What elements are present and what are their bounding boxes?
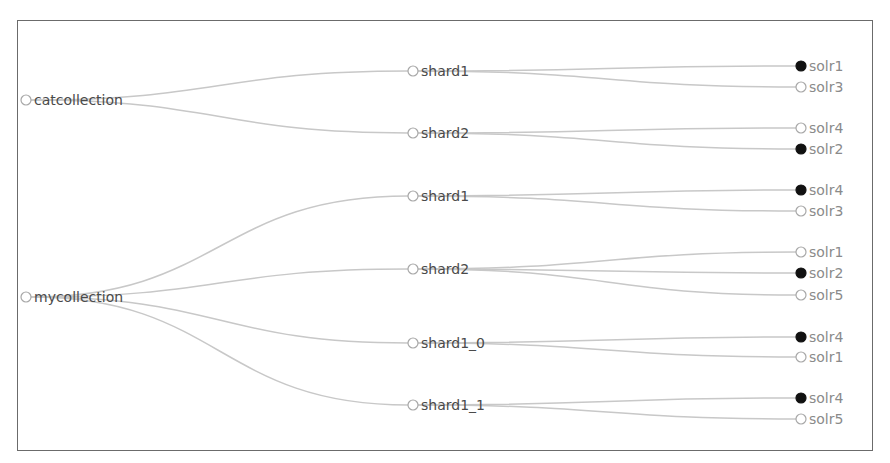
node-label: shard1 bbox=[421, 63, 469, 79]
collection-node-catcollection[interactable]: catcollection bbox=[21, 92, 123, 108]
node-label: mycollection bbox=[34, 289, 123, 305]
node-label: solr2 bbox=[809, 265, 843, 281]
replica-node-catcollection-shard1-solr3[interactable]: solr3 bbox=[796, 79, 843, 95]
shard-replica-link bbox=[418, 66, 796, 71]
replica-node-mycollection-shard1-solr4[interactable]: solr4 bbox=[796, 182, 844, 198]
inactive-node-icon[interactable] bbox=[796, 247, 806, 257]
replica-node-catcollection-shard2-solr2[interactable]: solr2 bbox=[796, 141, 843, 157]
active-node-icon[interactable] bbox=[796, 61, 806, 71]
collection-node-mycollection[interactable]: mycollection bbox=[21, 289, 123, 305]
tree-links bbox=[31, 66, 796, 419]
node-label: solr1 bbox=[809, 349, 843, 365]
collection-shard-link bbox=[31, 196, 408, 297]
replica-node-catcollection-shard2-solr4[interactable]: solr4 bbox=[796, 120, 844, 136]
node-label: solr4 bbox=[809, 390, 844, 406]
inactive-node-icon[interactable] bbox=[408, 264, 418, 274]
node-label: solr5 bbox=[809, 287, 843, 303]
node-label: solr4 bbox=[809, 329, 844, 345]
active-node-icon[interactable] bbox=[796, 268, 806, 278]
node-label: solr4 bbox=[809, 120, 844, 136]
inactive-node-icon[interactable] bbox=[796, 414, 806, 424]
replica-node-catcollection-shard1-solr1[interactable]: solr1 bbox=[796, 58, 843, 74]
active-node-icon[interactable] bbox=[796, 185, 806, 195]
node-label: shard1_1 bbox=[421, 397, 485, 413]
replica-node-mycollection-shard2-solr1[interactable]: solr1 bbox=[796, 244, 843, 260]
inactive-node-icon[interactable] bbox=[796, 290, 806, 300]
node-label: shard1 bbox=[421, 188, 469, 204]
node-label: solr3 bbox=[809, 79, 843, 95]
inactive-node-icon[interactable] bbox=[796, 352, 806, 362]
replica-node-mycollection-shard1_0-solr1[interactable]: solr1 bbox=[796, 349, 843, 365]
shard-replica-link bbox=[418, 252, 796, 269]
cloud-tree-graph: catcollectionshard1solr1solr3shard2solr4… bbox=[0, 0, 890, 463]
shard-node-mycollection-shard2[interactable]: shard2 bbox=[408, 261, 469, 277]
inactive-node-icon[interactable] bbox=[796, 82, 806, 92]
inactive-node-icon[interactable] bbox=[408, 66, 418, 76]
inactive-node-icon[interactable] bbox=[408, 338, 418, 348]
node-label: shard2 bbox=[421, 125, 469, 141]
replica-node-mycollection-shard1_0-solr4[interactable]: solr4 bbox=[796, 329, 844, 345]
shard-replica-link bbox=[418, 133, 796, 149]
shard-node-catcollection-shard2[interactable]: shard2 bbox=[408, 125, 469, 141]
replica-node-mycollection-shard1_1-solr4[interactable]: solr4 bbox=[796, 390, 844, 406]
active-node-icon[interactable] bbox=[796, 144, 806, 154]
node-label: solr1 bbox=[809, 244, 843, 260]
node-label: shard1_0 bbox=[421, 335, 485, 351]
tree-nodes: catcollectionshard1solr1solr3shard2solr4… bbox=[21, 58, 844, 427]
shard-replica-link bbox=[418, 128, 796, 133]
shard-node-mycollection-shard1[interactable]: shard1 bbox=[408, 188, 469, 204]
node-label: solr4 bbox=[809, 182, 844, 198]
replica-node-mycollection-shard2-solr2[interactable]: solr2 bbox=[796, 265, 843, 281]
inactive-node-icon[interactable] bbox=[796, 123, 806, 133]
inactive-node-icon[interactable] bbox=[796, 206, 806, 216]
replica-node-mycollection-shard1_1-solr5[interactable]: solr5 bbox=[796, 411, 843, 427]
inactive-node-icon[interactable] bbox=[21, 95, 31, 105]
node-label: solr3 bbox=[809, 203, 843, 219]
node-label: shard2 bbox=[421, 261, 469, 277]
inactive-node-icon[interactable] bbox=[408, 128, 418, 138]
active-node-icon[interactable] bbox=[796, 393, 806, 403]
replica-node-mycollection-shard1-solr3[interactable]: solr3 bbox=[796, 203, 843, 219]
shard-replica-link bbox=[418, 71, 796, 87]
node-label: catcollection bbox=[34, 92, 123, 108]
node-label: solr5 bbox=[809, 411, 843, 427]
inactive-node-icon[interactable] bbox=[408, 191, 418, 201]
shard-replica-link bbox=[418, 190, 796, 196]
inactive-node-icon[interactable] bbox=[21, 292, 31, 302]
shard-node-catcollection-shard1[interactable]: shard1 bbox=[408, 63, 469, 79]
collection-shard-link bbox=[31, 297, 408, 405]
node-label: solr2 bbox=[809, 141, 843, 157]
active-node-icon[interactable] bbox=[796, 332, 806, 342]
inactive-node-icon[interactable] bbox=[408, 400, 418, 410]
shard-replica-link bbox=[418, 196, 796, 211]
node-label: solr1 bbox=[809, 58, 843, 74]
replica-node-mycollection-shard2-solr5[interactable]: solr5 bbox=[796, 287, 843, 303]
